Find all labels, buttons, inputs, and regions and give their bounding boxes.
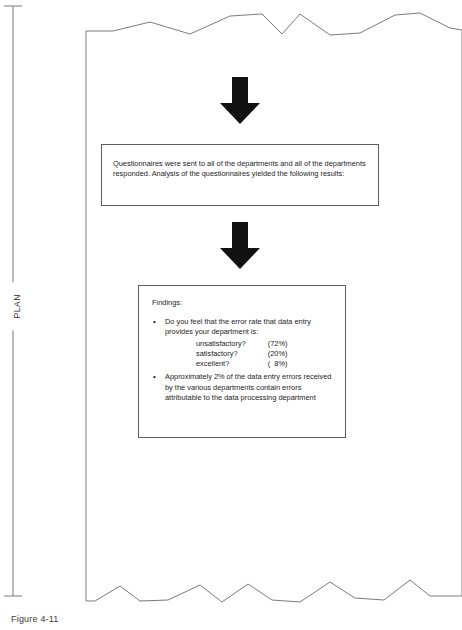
down-arrow-icon-top <box>219 77 261 125</box>
down-arrow-icon-middle <box>219 222 261 270</box>
survey-option-label: unsatisfactory? <box>196 339 268 349</box>
figure-caption: Figure 4-11 <box>11 614 59 624</box>
bullet-icon: • <box>153 372 156 382</box>
plan-bracket: PLAN <box>0 0 46 600</box>
findings-bullet-text-2: Approximately 2% of the data entry error… <box>165 372 331 402</box>
findings-bullet-item-1: • Do you feel that the error rate that d… <box>150 317 335 369</box>
findings-bullet-item-2: • Approximately 2% of the data entry err… <box>150 372 335 403</box>
questionnaire-results-text: Questionnaires were sent to all of the d… <box>113 159 367 180</box>
survey-option-value: (72%) <box>268 339 288 349</box>
survey-option-value: (20%) <box>268 349 288 359</box>
survey-row-excellent: excellent? ( 8%) <box>196 359 287 369</box>
survey-option-label: satisfactory? <box>196 349 268 359</box>
findings-title: Findings: <box>152 298 335 308</box>
findings-bullet-list: • Do you feel that the error rate that d… <box>150 317 335 403</box>
plan-phase-label: PLAN <box>11 282 24 330</box>
findings-bullet-text-1: Do you feel that the error rate that dat… <box>165 317 311 336</box>
findings-box: Findings: • Do you feel that the error r… <box>138 285 346 438</box>
bullet-icon: • <box>153 317 156 327</box>
survey-option-value: ( 8%) <box>268 359 288 369</box>
survey-response-table: unsatisfactory? (72%) satisfactory? (20%… <box>196 339 287 370</box>
survey-option-label: excellent? <box>196 359 268 369</box>
survey-row-satisfactory: satisfactory? (20%) <box>196 349 287 359</box>
questionnaire-results-box: Questionnaires were sent to all of the d… <box>101 144 379 206</box>
survey-row-unsatisfactory: unsatisfactory? (72%) <box>196 339 287 349</box>
